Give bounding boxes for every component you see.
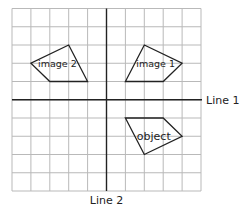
object-label: object	[137, 130, 172, 143]
line-1-label: Line 1	[206, 94, 239, 107]
image-1-label: image 1	[136, 58, 175, 69]
reflection-diagram: objectimage 1image 2 Line 1 Line 2	[0, 0, 240, 206]
line-2-label: Line 2	[90, 194, 123, 206]
image-2-label: image 2	[38, 58, 77, 69]
